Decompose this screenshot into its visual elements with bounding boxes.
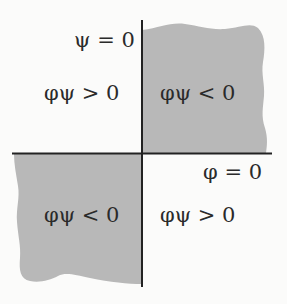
vertical-axis-label: ψ = 0 [74, 30, 135, 51]
sign-quadrant-diagram: ψ = 0 φψ > 0 φψ < 0 φ = 0 φψ < 0 φψ > 0 [0, 0, 287, 304]
quadrant-label-top-right: φψ < 0 [160, 83, 235, 104]
quadrant-label-bottom-right: φψ > 0 [160, 205, 235, 226]
diagram-canvas [0, 0, 287, 304]
quadrant-label-top-left: φψ > 0 [44, 83, 119, 104]
horizontal-axis-label: φ = 0 [203, 162, 262, 183]
quadrant-label-bottom-left: φψ < 0 [44, 205, 119, 226]
